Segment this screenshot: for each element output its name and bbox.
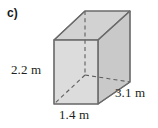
dimension-label-width: 1.4 m bbox=[59, 108, 89, 121]
prism-front-face bbox=[54, 40, 98, 104]
dimension-label-depth: 3.1 m bbox=[115, 86, 145, 99]
part-label: c) bbox=[7, 7, 18, 19]
geometry-figure: c) 2.2 m 1.4 m 3.1 m bbox=[0, 0, 158, 128]
dimension-label-height: 2.2 m bbox=[11, 63, 41, 76]
